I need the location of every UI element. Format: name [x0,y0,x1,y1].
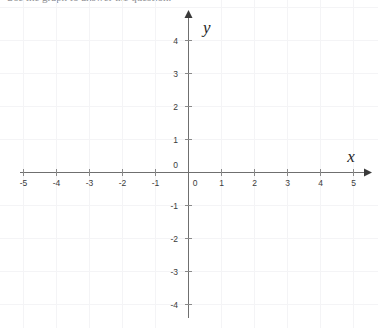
x-axis-label: x [346,147,355,166]
y-tick-label: 2 [173,102,178,112]
x-tick-label: 5 [351,178,356,188]
y-tick-label: -2 [170,234,178,244]
graph-figure: Use the graph to answer the question. [0,0,378,328]
y-tick-label: -4 [170,300,178,310]
x-tick-labels: -5 -4 -3 -2 -1 0 1 2 3 4 5 [20,178,356,188]
x-axis [20,169,372,177]
x-tick-label: -5 [20,178,28,188]
x-tick-label: 3 [285,178,290,188]
x-tick-label: -4 [53,178,61,188]
y-tick-label: -1 [170,201,178,211]
y-tick-label: 1 [173,135,178,145]
x-tick-label: -3 [86,178,94,188]
y-tick-label: 3 [173,69,178,79]
y-tick-label: -3 [170,267,178,277]
x-tick-label: -1 [152,178,160,188]
y-tick-label: 4 [173,36,178,46]
y-origin-label: 0 [173,160,178,170]
x-tick-label: 4 [318,178,323,188]
coordinate-plane: -5 -4 -3 -2 -1 0 1 2 3 4 5 4 3 2 1 0 -1 … [0,0,378,328]
x-tick-label: -2 [119,178,127,188]
x-origin-label: 0 [193,178,198,188]
y-axis-label: y [201,18,211,37]
x-tick-label: 2 [252,178,257,188]
y-axis-arrowhead [185,10,193,18]
x-tick-label: 1 [219,178,224,188]
x-axis-arrowhead [364,169,372,177]
